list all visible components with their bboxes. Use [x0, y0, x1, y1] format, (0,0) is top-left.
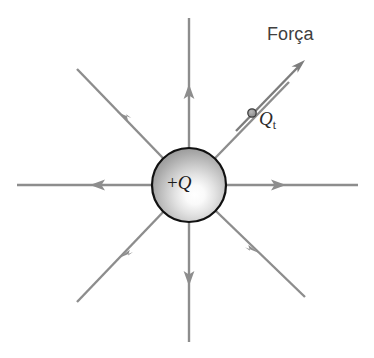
test-charge-subscript: t [273, 118, 276, 132]
test-charge-label: Qt [259, 108, 276, 130]
test-charge-symbol: Q [259, 108, 273, 129]
source-charge-label: +Q [167, 172, 191, 194]
source-charge-symbol: Q [178, 172, 192, 193]
test-charge-dot [248, 109, 256, 117]
force-label: Força [267, 24, 314, 45]
electric-field-diagram: Força +Q Qt [0, 0, 374, 358]
source-charge-plus-sign: + [167, 172, 178, 193]
